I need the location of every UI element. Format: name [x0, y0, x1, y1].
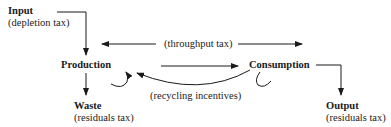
output-tax-label: (residuals tax) [326, 112, 386, 123]
recycling-arrow [137, 70, 250, 85]
input-label: Input [8, 5, 33, 16]
input-tax-label: (depletion tax) [8, 17, 70, 28]
output-label: Output [326, 100, 359, 111]
production-self-loop-icon [111, 72, 128, 87]
production-label: Production [61, 59, 111, 70]
throughput-tax-label: (throughput tax) [164, 38, 233, 49]
waste-label: Waste [74, 100, 101, 111]
recycling-incentives-label: (recycling incentives) [150, 90, 241, 101]
waste-tax-label: (residuals tax) [74, 112, 134, 123]
consumption-label: Consumption [249, 59, 310, 70]
consumption-to-output-arrow [316, 65, 341, 95]
consumption-self-loop-icon [256, 72, 271, 86]
